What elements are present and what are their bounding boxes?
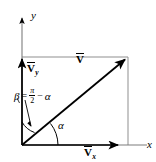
angle-beta-equation: β = π 2 − α	[14, 87, 51, 105]
vector-vx-subscript: x	[92, 152, 96, 161]
vector-vy-symbol: V	[27, 62, 35, 74]
equals-sign: =	[21, 91, 27, 101]
y-axis-label: y	[31, 10, 36, 21]
diagram-canvas	[0, 0, 156, 162]
vector-v-label: V	[76, 53, 84, 65]
vector-vy-subscript: y	[35, 68, 38, 77]
fraction-numerator: π	[29, 87, 35, 96]
angle-alpha-arc	[51, 124, 59, 146]
minus-sign: −	[37, 91, 43, 101]
angle-beta-alpha-term: α	[45, 91, 51, 102]
angle-alpha-label: α	[58, 120, 64, 131]
vector-v-symbol: V	[76, 53, 84, 65]
fraction-denominator: 2	[29, 95, 35, 105]
x-axis-label: x	[147, 139, 152, 150]
vector-vx-symbol: V	[84, 146, 92, 158]
vector-diagram-figure: y x V Vy Vx α β = π 2 − α	[0, 0, 156, 162]
vector-vx-label: Vx	[84, 146, 96, 158]
vector-vy-label: Vy	[27, 62, 38, 74]
angle-beta-symbol: β	[14, 91, 19, 102]
pi-over-two-fraction: π 2	[29, 87, 35, 105]
